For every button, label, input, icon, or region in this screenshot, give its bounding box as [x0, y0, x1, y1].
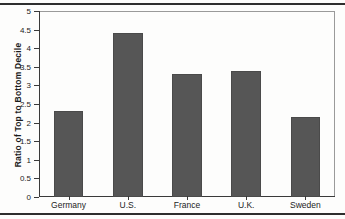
y-tick-label: 5	[0, 7, 31, 16]
y-tick-mark	[34, 104, 39, 105]
y-tick-label: 1	[0, 155, 31, 164]
y-tick-label: 2.5	[0, 100, 31, 109]
top-divider-rule	[0, 3, 345, 5]
y-tick-label: 3.5	[0, 62, 31, 71]
bar-u-k	[231, 71, 261, 197]
y-tick-label: 4	[0, 44, 31, 53]
x-tick-label: Sweden	[270, 200, 340, 210]
bar-germany	[54, 111, 84, 197]
y-tick-label: 4.5	[0, 25, 31, 34]
y-tick-label: 1.5	[0, 137, 31, 146]
y-tick-mark	[34, 178, 39, 179]
bar-sweden	[291, 117, 321, 197]
bar-france	[172, 74, 202, 197]
y-tick-mark	[34, 30, 39, 31]
y-tick-label: 0.5	[0, 174, 31, 183]
bar-chart-figure: Ratio of Top to Bottom Decile 00.511.522…	[0, 0, 345, 219]
y-tick-label: 3	[0, 81, 31, 90]
y-tick-mark	[34, 48, 39, 49]
y-tick-mark	[34, 123, 39, 124]
y-tick-label: 2	[0, 118, 31, 127]
bar-u-s	[113, 33, 143, 197]
bottom-divider-rule	[0, 213, 345, 215]
y-tick-mark	[34, 160, 39, 161]
y-tick-label: 0	[0, 193, 31, 202]
y-tick-mark	[34, 141, 39, 142]
y-tick-mark	[34, 67, 39, 68]
y-tick-mark	[34, 11, 39, 12]
y-tick-mark	[34, 197, 39, 198]
y-tick-mark	[34, 85, 39, 86]
y-axis-line	[39, 11, 40, 197]
